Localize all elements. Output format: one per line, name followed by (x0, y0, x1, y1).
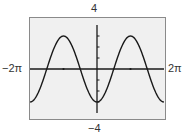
x-min-label: −2π (2, 63, 22, 74)
x-tick (129, 68, 131, 70)
x-tick (62, 68, 64, 70)
y-max-label: 4 (91, 3, 97, 14)
graph-plot (0, 0, 187, 136)
y-min-label: −4 (88, 123, 101, 134)
x-max-label: 2π (168, 63, 182, 74)
